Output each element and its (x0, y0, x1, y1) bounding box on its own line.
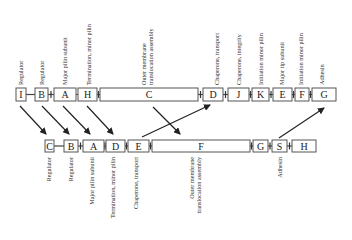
arrow-E-to-D (142, 105, 210, 137)
gene-letter: E (135, 141, 141, 152)
arrow-S-to-G (279, 108, 324, 138)
gene-function-label: Termination, minor pilin (109, 157, 116, 218)
gene-letter: B (68, 141, 75, 152)
top-gene-F: F Initiation minor pilin (295, 33, 309, 101)
gene-letter: E (279, 89, 285, 100)
top-gene-B: B Regulator (35, 61, 48, 101)
gene-letter: C (146, 89, 153, 100)
gene-function-label: Initiation minor pilin (297, 33, 304, 85)
arrow-B-to-B (42, 106, 69, 134)
top-operon: I Regulator B Regulator A Major pilin su… (16, 24, 336, 101)
gene-function-label-line1: Outer membrane (140, 43, 147, 85)
operon-comparison-diagram: I Regulator B Regulator A Major pilin su… (0, 0, 352, 240)
bottom-gene-F: F Outer membrane translocation assembly (152, 140, 250, 214)
gene-letter: B (38, 89, 45, 100)
gene-letter: J (237, 89, 241, 100)
arrow-H-to-D (87, 106, 113, 134)
bottom-gene-C: C Regulator (45, 140, 54, 181)
top-gene-C: C Outer membrane translocation assembly (100, 28, 198, 101)
gene-letter: D (112, 141, 119, 152)
gene-letter: H (84, 89, 91, 100)
gene-function-label: Chaperone, transport (132, 157, 139, 209)
top-gene-I: I Regulator (16, 61, 26, 101)
gene-letter: S (277, 141, 283, 152)
gene-letter: A (90, 141, 98, 152)
gene-function-label-line1: Outer membrane (188, 157, 195, 199)
bottom-gene-E: E Chaperone, transport (128, 140, 149, 209)
gene-function-label-line2: translocation assembly (195, 156, 202, 213)
gene-function-label-line2: translocation assembly (147, 28, 154, 85)
top-gene-G: G Adhesin (312, 64, 336, 101)
gene-letter: C (46, 141, 53, 152)
bottom-gene-A: A Major pilin subunit (83, 140, 104, 205)
gene-function-label: Initiation minor pilin (257, 33, 264, 85)
gene-function-label: Regulator (67, 157, 74, 181)
homology-arrows (20, 105, 324, 138)
gene-function-label: Regulator (17, 61, 24, 85)
bottom-gene-G: G (253, 140, 268, 152)
gene-function-label: Regulator (45, 157, 52, 181)
gene-letter: D (209, 89, 216, 100)
gene-function-label: Termination, minor pilin (85, 24, 92, 85)
bottom-gene-B: B Regulator (64, 140, 78, 181)
top-gene-J: J Chaperone, integrity (228, 33, 249, 101)
gene-function-label: Chaperone, transport (213, 33, 220, 85)
arrow-I-to-C (20, 106, 46, 134)
gene-letter: F (198, 141, 204, 152)
bottom-operon: C Regulator B Regulator A Major pilin su… (45, 140, 316, 218)
gene-letter: I (19, 89, 22, 100)
arrow-A-to-A (63, 106, 90, 134)
top-gene-D: D Chaperone, transport (203, 33, 223, 101)
gene-function-label: Major tip subunit (278, 42, 285, 85)
top-gene-H: H Termination, minor pilin (78, 24, 97, 101)
gene-function-label: Major pilin subunit (61, 37, 68, 85)
gene-letter: G (320, 89, 327, 100)
bottom-gene-D: D Termination, minor pilin (106, 140, 125, 218)
gene-function-label: Chaperone, integrity (235, 33, 242, 85)
gene-function-label: Adhesin (318, 64, 325, 85)
bottom-gene-S: S Adhesin (272, 140, 287, 178)
gene-letter: G (257, 141, 264, 152)
top-gene-A: A Major pilin subunit (54, 37, 76, 101)
gene-letter: H (300, 141, 307, 152)
gene-function-label: Regulator (38, 61, 45, 85)
top-gene-E: E Major tip subunit (273, 42, 292, 101)
gene-function-label: Major pilin subunit (88, 157, 95, 205)
gene-letter: F (299, 89, 305, 100)
gene-function-label: Adhesin (276, 157, 283, 178)
bottom-gene-H: H (292, 140, 316, 152)
top-gene-K: K Initiation minor pilin (252, 33, 269, 101)
gene-letter: A (61, 89, 69, 100)
gene-letter: K (257, 89, 265, 100)
